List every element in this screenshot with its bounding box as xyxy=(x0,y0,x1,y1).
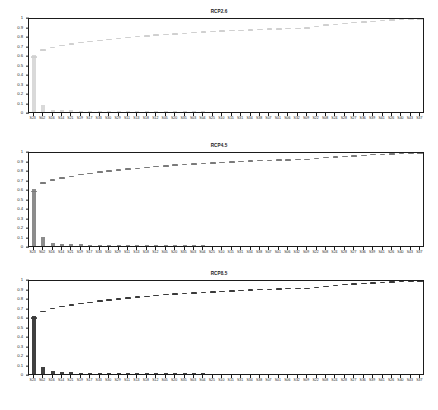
bar xyxy=(135,111,139,112)
bar xyxy=(79,373,83,374)
x-tick-label: S08 xyxy=(322,117,328,121)
bar xyxy=(305,246,309,247)
x-tick-label: S26 xyxy=(388,117,394,121)
cumulative-point xyxy=(389,281,395,282)
x-tick-label: S17 xyxy=(86,251,92,255)
cumulative-point xyxy=(408,19,414,20)
bar xyxy=(390,374,394,375)
cumulative-point xyxy=(399,281,405,282)
x-tick-label: S31 xyxy=(237,117,243,121)
cumulative-point xyxy=(370,282,376,283)
bar xyxy=(286,112,290,113)
cumulative-point xyxy=(295,288,301,289)
cumulative-point xyxy=(361,155,367,156)
cumulative-point xyxy=(40,49,46,50)
x-tick-label: S22 xyxy=(312,251,318,255)
cumulative-point xyxy=(417,280,423,281)
cumulative-point xyxy=(201,31,207,32)
x-tick-label: S40 xyxy=(397,117,403,121)
bar xyxy=(418,112,422,113)
bar xyxy=(315,112,319,113)
y-tick-label: 1 xyxy=(21,150,23,154)
bar xyxy=(249,112,253,113)
x-tick-label: S11 xyxy=(124,251,130,255)
bar xyxy=(211,374,215,375)
bar xyxy=(343,246,347,247)
x-tick-label: S14 xyxy=(58,117,64,121)
bar xyxy=(32,189,36,246)
x-tick-label: S12 xyxy=(152,251,158,255)
y-tick-label: 0.7 xyxy=(17,178,23,182)
bar xyxy=(51,110,55,112)
x-tick-label: S24 xyxy=(331,117,337,121)
bar xyxy=(230,112,234,113)
bar xyxy=(107,111,111,112)
x-tick-label: S40 xyxy=(397,251,403,255)
bar xyxy=(371,374,375,375)
x-tick-label: S27 xyxy=(350,379,356,383)
bar xyxy=(258,246,262,247)
x-tick-label: S01 xyxy=(275,379,281,383)
cumulative-point xyxy=(229,290,235,291)
x-tick-label: S09 xyxy=(303,379,309,383)
bar xyxy=(164,245,168,246)
cumulative-point xyxy=(201,292,207,293)
cumulative-point xyxy=(210,31,216,32)
bar xyxy=(267,112,271,113)
cumulative-point xyxy=(31,191,37,192)
x-tick-label: S32 xyxy=(294,117,300,121)
cumulative-point xyxy=(191,292,197,293)
x-tick-label: S37 xyxy=(416,251,422,255)
x-tick-label: S19 xyxy=(77,117,83,121)
cumulative-point xyxy=(380,20,386,21)
x-tick-label: S14 xyxy=(58,379,64,383)
cumulative-point xyxy=(31,56,37,57)
cumulative-point xyxy=(163,294,169,295)
bar xyxy=(135,373,139,374)
plot-area xyxy=(28,280,424,375)
bar xyxy=(296,374,300,375)
bar xyxy=(277,246,281,247)
bar xyxy=(399,246,403,247)
cumulative-point xyxy=(248,289,254,290)
x-tick-label: S43 xyxy=(407,117,413,121)
cumulative-point xyxy=(389,19,395,20)
bar xyxy=(183,373,187,374)
cumulative-point xyxy=(370,154,376,155)
x-tick-label: S16 xyxy=(48,251,54,255)
x-tick-label: S07 xyxy=(265,251,271,255)
x-tick-label: S24 xyxy=(331,251,337,255)
bar xyxy=(315,374,319,375)
cumulative-point xyxy=(87,173,93,174)
x-tick-label: S33 xyxy=(96,251,102,255)
y-tick-label: 0.2 xyxy=(17,354,23,358)
bar xyxy=(239,374,243,375)
bar xyxy=(211,246,215,247)
cumulative-point xyxy=(106,299,112,300)
cumulative-point xyxy=(267,28,273,29)
bar xyxy=(315,246,319,247)
x-tick-label: S14 xyxy=(58,251,64,255)
bar xyxy=(352,246,356,247)
cumulative-point xyxy=(182,293,188,294)
bar xyxy=(98,373,102,374)
x-tick-label: S35 xyxy=(180,117,186,121)
cumulative-point xyxy=(314,26,320,27)
cumulative-point xyxy=(314,158,320,159)
cumulative-point xyxy=(163,34,169,35)
x-tick-label: S25 xyxy=(209,117,215,121)
bar xyxy=(79,244,83,246)
y-tick-label: 0.6 xyxy=(17,188,23,192)
bar xyxy=(145,245,149,246)
bar xyxy=(258,374,262,375)
bar xyxy=(69,110,73,112)
y-tick-label: 0.3 xyxy=(17,344,23,348)
x-tick-label: S05 xyxy=(162,117,168,121)
y-tick-label: 0.2 xyxy=(17,226,23,230)
x-tick-label: S39 xyxy=(369,251,375,255)
x-axis: S23S02S16S14S21S19S17S33S30S29S11S13S18S… xyxy=(28,375,424,394)
cumulative-point xyxy=(238,290,244,291)
x-tick-label: S33 xyxy=(96,117,102,121)
cumulative-point xyxy=(380,154,386,155)
cumulative-point xyxy=(116,298,122,299)
